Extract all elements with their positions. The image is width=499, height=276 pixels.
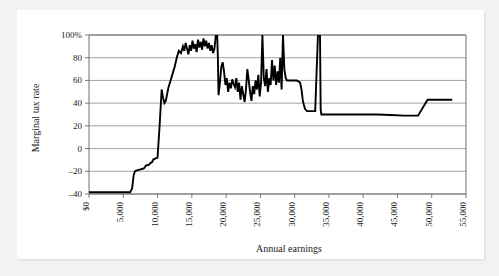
x-tick-label: 35,000 (321, 202, 331, 227)
x-tick-label: 50,000 (424, 202, 434, 227)
x-tick-label: 30,000 (287, 202, 297, 227)
x-tick-label: 40,000 (355, 202, 365, 227)
chart-gridlines (89, 35, 466, 194)
y-tick-label: 0 (78, 144, 83, 154)
y-axis-title: Marginal tax rate (30, 83, 41, 152)
y-axis-tick-labels: 100%806040200–20–40 (61, 30, 83, 199)
x-tick-label: 10,000 (150, 202, 160, 227)
y-tick-label: 40 (73, 98, 83, 108)
x-tick-label: $0 (81, 202, 91, 212)
x-tick-label: 45,000 (389, 202, 399, 227)
x-tick-label: 15,000 (184, 202, 194, 227)
marginal-tax-rate-chart: 100%806040200–20–40 $05,00010,00015,0002… (17, 10, 484, 259)
marginal-tax-rate-line (89, 35, 452, 192)
figure-plate: 100%806040200–20–40 $05,00010,00015,0002… (17, 10, 484, 259)
x-tick-label: 55,000 (458, 202, 468, 227)
x-axis-tick-labels: $05,00010,00015,00020,00025,00030,00035,… (81, 202, 468, 227)
data-series-line (89, 35, 452, 192)
x-tick-label: 20,000 (218, 202, 228, 227)
y-tick-label: 60 (73, 75, 83, 85)
x-tick-label: 25,000 (252, 202, 262, 227)
x-axis-title: Annual earnings (256, 243, 322, 254)
y-tick-label: 80 (73, 53, 83, 63)
x-tick-label: 5,000 (115, 202, 125, 223)
y-tick-label: –40 (68, 189, 83, 199)
figure-frame: 100%806040200–20–40 $05,00010,00015,0002… (0, 0, 499, 276)
y-tick-label: –20 (68, 166, 83, 176)
chart-axes (89, 35, 466, 194)
y-tick-label: 100% (61, 30, 83, 40)
y-tick-label: 20 (73, 121, 83, 131)
